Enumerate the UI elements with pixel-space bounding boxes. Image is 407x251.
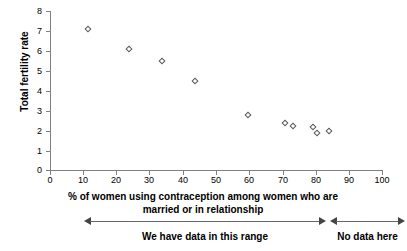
data-point xyxy=(244,112,251,119)
x-tick-label: 80 xyxy=(303,176,329,185)
x-tick-label: 50 xyxy=(203,176,229,185)
data-point xyxy=(289,123,296,130)
data-range-arrow xyxy=(84,217,326,226)
y-tick-label: 2 xyxy=(24,127,42,136)
data-range-label: We have data in this range xyxy=(84,231,326,243)
scatter-chart: Total fertility rate 8 7 6 5 4 3 2 1 0 0… xyxy=(0,0,407,251)
x-tick-label: 0 xyxy=(37,176,63,185)
arrow-shaft xyxy=(90,221,320,222)
data-point xyxy=(158,57,165,64)
x-axis-title: % of women using contraception among wom… xyxy=(33,190,373,216)
x-tick-label: 100 xyxy=(369,176,395,185)
arrow-right-icon xyxy=(319,217,326,225)
x-tick-label: 90 xyxy=(336,176,362,185)
data-point xyxy=(192,77,199,84)
data-point xyxy=(85,25,92,32)
x-tick-label: 10 xyxy=(70,176,96,185)
x-axis-title-line2: married or in relationship xyxy=(143,204,264,215)
data-point xyxy=(125,45,132,52)
data-point xyxy=(325,128,332,135)
arrow-right-icon xyxy=(398,217,405,225)
y-tick-label: 0 xyxy=(24,166,42,175)
plot-area xyxy=(50,11,382,170)
no-data-label: No data here xyxy=(328,231,407,243)
x-tick-label: 20 xyxy=(103,176,129,185)
x-tick-label: 60 xyxy=(236,176,262,185)
data-point xyxy=(313,130,320,137)
x-tick-label: 70 xyxy=(270,176,296,185)
arrow-shaft xyxy=(336,221,399,222)
data-point xyxy=(282,120,289,127)
y-tick-label: 3 xyxy=(24,107,42,116)
y-tick-label: 1 xyxy=(24,147,42,156)
y-tick-label: 5 xyxy=(24,67,42,76)
y-tick-label: 8 xyxy=(24,7,42,16)
y-tick-label: 4 xyxy=(24,87,42,96)
x-tick-label: 30 xyxy=(136,176,162,185)
y-tick-label: 7 xyxy=(24,27,42,36)
no-data-arrow xyxy=(330,217,405,226)
x-axis-title-line1: % of women using contraception among wom… xyxy=(68,191,338,202)
x-tick-label: 40 xyxy=(170,176,196,185)
y-tick-label: 6 xyxy=(24,47,42,56)
